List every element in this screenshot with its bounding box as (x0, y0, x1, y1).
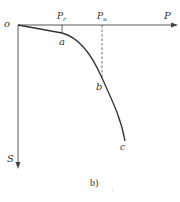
figure-caption: b) (90, 178, 98, 188)
p-axis-label: P (164, 11, 171, 21)
origin-label: o (4, 19, 10, 29)
p-s-curve (18, 25, 125, 141)
stray-mark: ' (112, 189, 113, 196)
p-u-label: Pu (97, 12, 107, 22)
diagram-canvas (0, 0, 180, 202)
s-axis-arrow-icon (16, 162, 21, 169)
s-axis-label: S (7, 154, 14, 164)
p-u-subscript: u (103, 15, 107, 22)
p-r-label: Pr (57, 12, 66, 22)
point-b-label: b (96, 82, 102, 92)
point-c-label: c (120, 143, 125, 152)
point-a-label: a (59, 37, 65, 47)
p-axis-arrow-icon (171, 23, 178, 28)
p-s-curve-diagram: o P S Pr Pu a b c b) ' (0, 0, 180, 202)
p-r-subscript: r (63, 15, 66, 22)
